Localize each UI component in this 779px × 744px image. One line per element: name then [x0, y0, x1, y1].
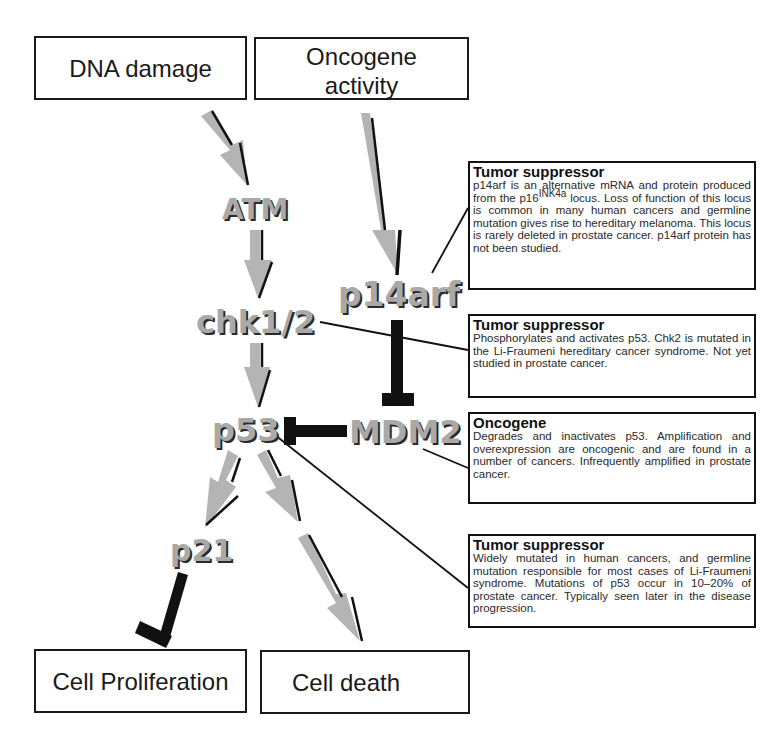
annotation-mdm2-title: Oncogene: [473, 415, 751, 430]
node-atm: ATM: [222, 193, 288, 226]
arrow-chk-to-p53: [244, 343, 270, 407]
arrow-atm-to-chk: [244, 230, 272, 298]
inhibitor-p14arf-to-mdm2: [382, 320, 414, 406]
leader-line-p14arf: [432, 208, 468, 273]
dna-damage-box: DNA damage: [34, 36, 247, 100]
inhibitor-p21-to-proliferation: [135, 572, 188, 648]
dna-damage-label: DNA damage: [69, 55, 212, 82]
arrow-oncogene-to-p14arf: [361, 113, 400, 275]
annotation-chk-title: Tumor suppressor: [473, 317, 751, 332]
oncogene-label-line2: activity: [325, 71, 398, 100]
annotation-p53: Tumor suppressor Widely mutated in human…: [468, 534, 756, 628]
node-p21: p21: [170, 533, 233, 568]
annotation-p14arf-title: Tumor suppressor: [473, 164, 751, 179]
node-p53: p53: [212, 411, 279, 449]
inhibitor-mdm2-to-p53: [284, 417, 347, 445]
oncogene-activity-box: Oncogene activity: [254, 37, 469, 100]
annotation-chk-text: Phosphorylates and activates p53. Chk2 i…: [473, 332, 751, 369]
annotation-mdm2: Oncogene Degrades and inactivates p53. A…: [468, 412, 756, 504]
leader-line-mdm2: [423, 449, 468, 468]
leader-line-p53: [275, 435, 468, 588]
cell-proliferation-box: Cell Proliferation: [34, 649, 247, 713]
annotation-p14arf-sup: INK4a: [539, 188, 567, 199]
annotation-p53-title: Tumor suppressor: [473, 537, 751, 552]
node-chk: chk1/2: [196, 303, 315, 341]
arrow-p53-to-death-lower: [298, 533, 362, 641]
oncogene-label-line1: Oncogene: [306, 42, 417, 71]
cell-proliferation-label: Cell Proliferation: [52, 668, 228, 695]
cell-death-label: Cell death: [292, 669, 400, 696]
annotation-chk: Tumor suppressor Phosphorylates and acti…: [468, 314, 756, 398]
annotation-p14arf: Tumor suppressor p14arf is an alternativ…: [468, 161, 756, 290]
cell-death-box: Cell death: [260, 650, 470, 714]
arrow-p53-to-p21: [205, 450, 240, 528]
annotation-p53-text: Widely mutated in human cancers, and ger…: [473, 552, 751, 614]
arrow-dna-to-atm: [201, 110, 248, 185]
annotation-mdm2-text: Degrades and inactivates p53. Amplificat…: [473, 430, 751, 480]
node-mdm2: MDM2: [349, 413, 462, 451]
arrow-p53-to-death-upper: [257, 450, 300, 522]
node-p14arf: p14arf: [338, 275, 460, 314]
